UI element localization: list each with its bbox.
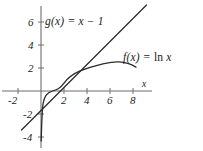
x-tick-6: 6: [107, 95, 113, 106]
graph-figure: 6 4 2 -2 -4 -2 2 4 6 8 x g(x) = x − 1 f(…: [0, 0, 203, 151]
f-label-variable: x: [166, 51, 171, 63]
f-label-function: ln: [154, 51, 163, 63]
g-function-label: g(x) = x − 1: [45, 16, 104, 28]
f-label-prefix: f(x) =: [123, 51, 151, 63]
x-tick-minus-2: -2: [8, 95, 17, 106]
y-tick-6: 6: [28, 17, 34, 28]
g-label-suffix: − 1: [87, 15, 104, 27]
y-tick-minus-2: -2: [23, 109, 32, 120]
g-label-variable: x: [78, 15, 83, 27]
y-tick-minus-4: -4: [23, 132, 32, 143]
f-function-label: f(x) = ln x: [123, 52, 172, 64]
y-tick-2: 2: [28, 63, 34, 74]
x-tick-2: 2: [61, 95, 67, 106]
g-label-prefix: g(x) =: [45, 15, 75, 27]
x-axis-label: x: [142, 80, 146, 90]
y-tick-4: 4: [28, 40, 34, 51]
x-tick-4: 4: [84, 95, 90, 106]
x-tick-8: 8: [130, 95, 136, 106]
